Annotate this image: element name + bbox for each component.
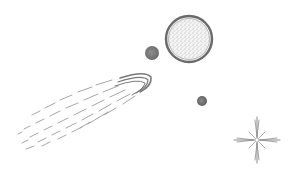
comet-tail: [18, 80, 135, 149]
space-sketch-illustration: [0, 0, 294, 184]
small-moon: [145, 46, 159, 60]
tiny-moon: [197, 96, 207, 106]
comet: [18, 74, 151, 149]
large-planet: [166, 16, 212, 62]
sparkle-star-icon: [234, 117, 280, 163]
